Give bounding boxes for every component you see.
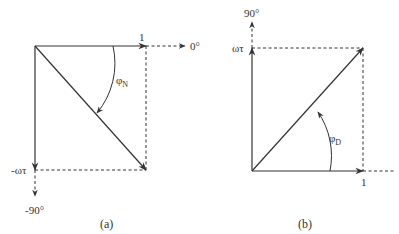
label-ninety-deg: 90° (244, 7, 259, 19)
label-one-b: 1 (361, 176, 367, 188)
label-phi-n: φN (116, 74, 128, 89)
diagram-a: 1 0° -ωτ -90° φN (a) (11, 31, 200, 231)
phi-n-arc (97, 46, 115, 113)
diagram-b: 90° ωτ 1 φD (b) (232, 7, 395, 231)
label-omega-tau: ωτ (232, 42, 244, 54)
resultant-vector-b (252, 48, 363, 171)
caption-b: (b) (298, 217, 312, 231)
label-one-a: 1 (139, 31, 145, 43)
label-zero-deg: 0° (190, 40, 200, 52)
label-neg-90-deg: -90° (25, 204, 44, 216)
resultant-vector-a (35, 46, 146, 170)
caption-a: (a) (100, 217, 113, 231)
label-neg-omega-tau: -ωτ (11, 164, 27, 176)
